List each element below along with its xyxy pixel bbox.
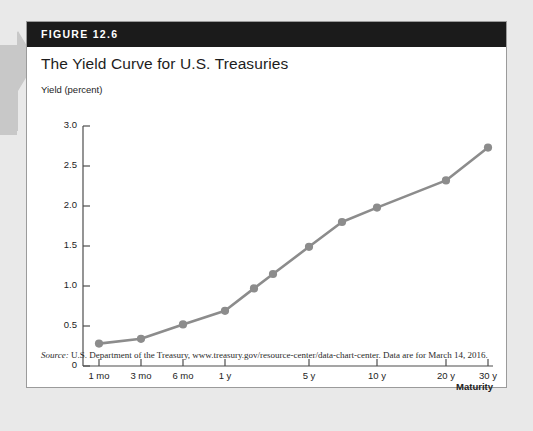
data-point-marker — [250, 284, 258, 292]
data-point-marker — [221, 307, 229, 315]
y-tick-label: 1.5 — [51, 239, 77, 250]
chart-plot-area: Yield (percent) Maturity 00.51.01.52.02.… — [41, 84, 493, 324]
figure-number-band: FIGURE 12.6 — [27, 22, 506, 47]
figure-card: FIGURE 12.6 The Yield Curve for U.S. Tre… — [26, 21, 507, 388]
chart-svg — [41, 84, 493, 384]
data-point-marker — [305, 243, 313, 251]
y-tick-label: 0.5 — [51, 319, 77, 330]
data-point-marker — [179, 320, 187, 328]
figure-title: The Yield Curve for U.S. Treasuries — [41, 55, 288, 73]
x-tick-label: 3 mo — [121, 370, 161, 381]
x-tick-label: 30 y — [468, 370, 508, 381]
figure-number-label: FIGURE 12.6 — [41, 28, 118, 40]
x-tick-label: 20 y — [426, 370, 466, 381]
x-tick-label: 1 mo — [79, 370, 119, 381]
y-tick-label: 2.5 — [51, 159, 77, 170]
x-tick-label: 5 y — [289, 370, 329, 381]
y-tick-label: 3.0 — [51, 119, 77, 130]
data-point-marker — [137, 335, 145, 343]
y-tick-label: 2.0 — [51, 199, 77, 210]
source-text: U.S. Department of the Treasury, www.tre… — [69, 350, 488, 360]
data-point-marker — [269, 270, 277, 278]
x-tick-label: 10 y — [357, 370, 397, 381]
data-point-marker — [338, 218, 346, 226]
x-tick-label: 1 y — [205, 370, 245, 381]
source-prefix: Source: — [41, 350, 69, 360]
y-tick-label: 1.0 — [51, 279, 77, 290]
x-tick-label: 6 mo — [163, 370, 203, 381]
data-point-marker — [373, 204, 381, 212]
x-axis-title: Maturity — [456, 381, 493, 392]
source-note: Source: U.S. Department of the Treasury,… — [41, 349, 493, 362]
data-point-marker — [442, 176, 450, 184]
data-point-marker — [95, 340, 103, 348]
data-point-marker — [484, 144, 492, 152]
